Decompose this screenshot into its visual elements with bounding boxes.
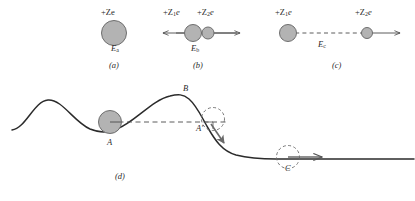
charge-label-a: +Ze xyxy=(101,8,115,17)
fragment-circle-b-right xyxy=(202,27,214,39)
figure-canvas xyxy=(0,0,415,201)
panel-c-graphic xyxy=(280,25,401,42)
panel-b-graphic xyxy=(163,25,240,42)
charge-label-c-right: +Z2e xyxy=(355,8,372,17)
energy-label-c: Ec xyxy=(318,40,326,49)
point-label-a: A xyxy=(107,138,112,147)
energy-sub-b: b xyxy=(196,47,199,53)
charge-tail-b-right: e xyxy=(210,7,214,17)
panel-caption-b: (b) xyxy=(193,61,203,70)
velocity-arrow-a-prime xyxy=(211,124,224,143)
energy-sub-c: c xyxy=(323,43,326,49)
energy-label-a: Ea xyxy=(111,44,119,53)
charge-label-b-right: +Z2e xyxy=(197,8,214,17)
panel-caption-a: (a) xyxy=(109,61,119,70)
point-label-a-prime: A′ xyxy=(196,124,203,133)
energy-label-b: Eb xyxy=(191,44,199,53)
point-label-c: C xyxy=(285,164,291,173)
fragment-circle-b-left xyxy=(185,25,202,42)
charge-label-c-left-text: +Z xyxy=(275,7,285,17)
charge-tail-b-left: e xyxy=(176,7,180,17)
charge-tail-c-right: e xyxy=(368,7,372,17)
charge-label-b-left-text: +Z xyxy=(163,7,173,17)
physics-figure: +Ze Ea (a) +Z1e +Z2e Eb (b) +Z1e +Z2e Ec… xyxy=(0,0,415,201)
charge-label-b-right-text: +Z xyxy=(197,7,207,17)
nucleus-circle-a xyxy=(102,21,127,46)
panel-caption-d: (d) xyxy=(115,172,125,181)
fragment-circle-c-right xyxy=(362,28,373,39)
charge-tail-c-left: e xyxy=(288,7,292,17)
charge-label-c-left: +Z1e xyxy=(275,8,292,17)
panel-a-graphic xyxy=(102,21,127,46)
energy-sub-a: a xyxy=(116,47,119,53)
panel-caption-c: (c) xyxy=(332,61,341,70)
charge-label-c-right-text: +Z xyxy=(355,7,365,17)
panel-d-graphic xyxy=(12,95,414,169)
fragment-circle-c-left xyxy=(280,25,297,42)
charge-label-b-left: +Z1e xyxy=(163,8,180,17)
point-label-b: B xyxy=(183,84,188,93)
